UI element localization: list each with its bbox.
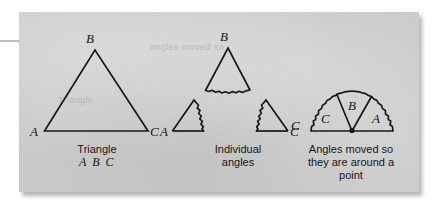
angle-piece-c-torn-edge [256,103,264,132]
triangle-vertex-label-a: A [29,124,38,139]
triangle-vertex-label-c: C [150,124,159,139]
caption-middle-line2: angles [182,156,294,169]
adjacent-panel-label-c: C [291,118,300,133]
angle-piece-label-a: A [159,124,168,139]
caption-right-line1: Angles moved so [293,143,409,156]
caption-right-line2: they are around a [293,156,409,169]
angle-piece-b-torn-edge [206,90,251,93]
caption-left-line2: A B C [44,156,150,169]
triangle-vertex-label-b: B [86,31,94,46]
caption-right-line3: point [293,169,409,182]
panel-left-triangle: B A C [29,31,159,139]
caption-middle-line1: Individual [182,143,294,156]
caption-left-panel: Triangle A B C [44,143,150,169]
caption-right-panel: Angles moved so they are around a point [293,143,409,182]
angle-piece-b-sides [206,48,251,91]
panel-right-angles-around-point: C B A C [291,91,393,133]
figure-drawing: B A C B A C [0,0,434,215]
sector-label-a: A [371,111,380,126]
angle-piece-c-sides [264,100,288,131]
sector-label-c: C [321,111,330,126]
figure-root: angles moved so Triangle B A C B A C [0,0,434,215]
angle-piece-label-b: B [220,29,228,44]
angle-piece-a-torn-edge [196,103,204,132]
triangle-abc-outline [45,50,149,131]
caption-middle-panel: Individual angles [182,143,294,169]
common-vertex-point [349,128,354,133]
angle-piece-a-sides [173,100,197,131]
panel-middle-individual-angles: B A C [159,29,299,139]
sector-label-b: B [348,98,356,113]
